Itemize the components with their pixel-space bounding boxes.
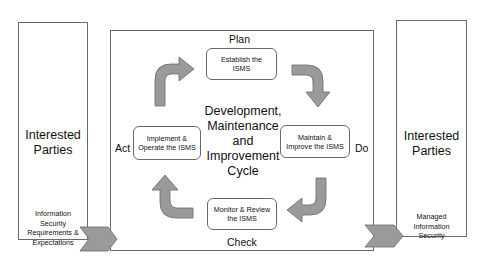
do-step-line1: Maintain &: [286, 133, 344, 142]
phase-label-plan: Plan: [229, 33, 250, 45]
cycle-title-line2: Maintenance: [193, 119, 293, 134]
check-step-line1: Monitor & Review: [214, 205, 270, 214]
step-monitor-review-isms: Monitor & Review the ISMS: [207, 198, 277, 230]
phase-label-check: Check: [227, 236, 257, 248]
plan-step-line2: ISMS: [221, 64, 262, 73]
act-step-line1: Implement &: [138, 134, 196, 143]
phase-label-act: Act: [115, 142, 130, 154]
cycle-title: Development, Maintenance and Improvement…: [193, 104, 293, 179]
step-establish-isms: Establish the ISMS: [206, 48, 277, 80]
act-step-line2: Operate the ISMS: [138, 143, 196, 152]
cycle-title-line1: Development,: [193, 104, 293, 119]
cycle-title-line4: Improvement: [193, 149, 293, 164]
cycle-title-line5: Cycle: [193, 164, 293, 179]
step-implement-operate-isms: Implement & Operate the ISMS: [133, 126, 201, 160]
plan-step-line1: Establish the: [221, 55, 262, 64]
cycle-title-line3: and: [193, 134, 293, 149]
phase-label-do: Do: [355, 142, 368, 154]
check-step-line2: the ISMS: [214, 214, 270, 223]
do-step-line2: Improve the ISMS: [286, 142, 344, 151]
